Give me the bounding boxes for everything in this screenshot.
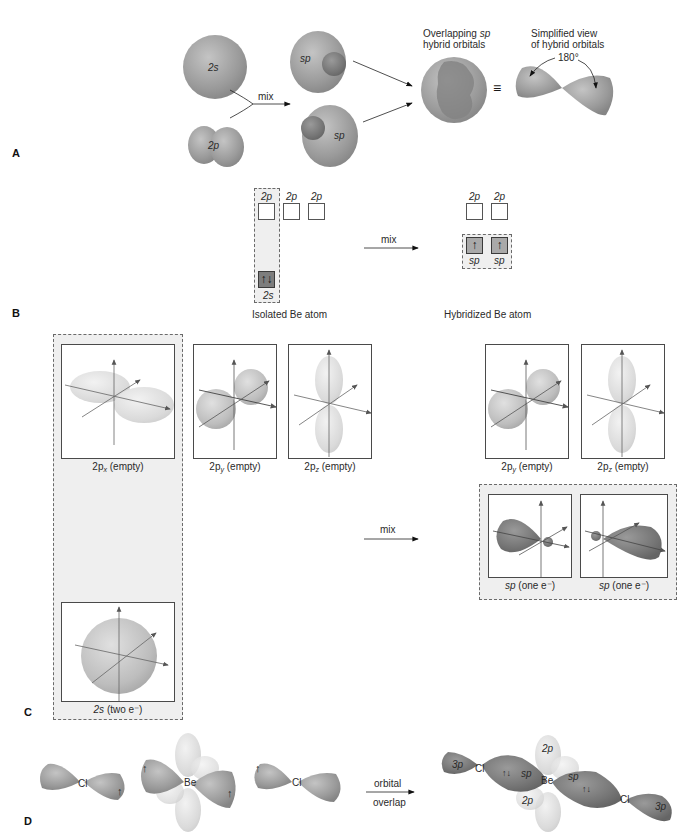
product-right-pair: ↑↓: [582, 784, 591, 794]
be-label: Be: [184, 777, 196, 788]
left-cl-electron: ↑: [117, 785, 123, 797]
product-left-cl-label: Cl: [475, 763, 484, 774]
product-left-sp-label: sp: [521, 768, 532, 779]
be-left-electron: ↑: [142, 762, 148, 774]
product-right-sp-label: sp: [568, 771, 579, 782]
left-cl-label: Cl: [78, 778, 87, 789]
product-be-label: Be: [541, 775, 553, 786]
orbital-overlap-label-2: overlap: [373, 797, 406, 808]
orbital-overlap-label-1: orbital: [374, 778, 401, 789]
be-right-electron: ↑: [227, 787, 233, 799]
panel-letter-d: D: [24, 815, 32, 827]
left-cl-3p-lobe-outer: [40, 764, 80, 790]
product-top-2p-label: 2p: [542, 743, 553, 754]
right-cl-label: Cl: [292, 777, 301, 788]
product-left-3p-label: 3p: [452, 759, 463, 770]
product-bottom-2p-label: 2p: [522, 795, 533, 806]
right-cl-3p-lobe-outer: [298, 773, 341, 802]
product-right-3p-label: 3p: [655, 801, 666, 812]
product-left-pair: ↑↓: [502, 768, 511, 778]
right-cl-electron: ↑: [255, 762, 261, 774]
product-right-cl-label: Cl: [620, 794, 629, 805]
panel-d-graphics: [0, 0, 698, 833]
